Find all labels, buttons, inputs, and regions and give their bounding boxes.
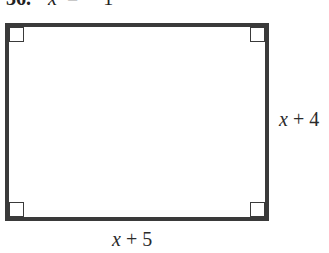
problem-variable: x (48, 0, 57, 9)
side-label-bottom: x + 5 (112, 229, 152, 249)
problem-number: 36. (6, 0, 31, 9)
side-label-bottom-operator: + (126, 228, 137, 250)
right-angle-marker-bottom-right (250, 202, 265, 217)
side-label-right-operator: + (293, 108, 304, 130)
side-label-right: x + 4 (279, 109, 319, 129)
right-angle-marker-top-right (250, 27, 265, 42)
problem-value: 1 (103, 0, 113, 9)
right-angle-marker-top-left (9, 27, 24, 42)
right-angle-marker-bottom-left (9, 202, 24, 217)
problem-header: 36. x = 1 (6, 0, 113, 8)
side-label-right-constant: 4 (309, 108, 319, 130)
problem-equals: = (62, 0, 98, 9)
side-label-right-variable: x (279, 108, 288, 130)
side-label-bottom-variable: x (112, 228, 121, 250)
rectangle-figure (5, 23, 269, 221)
side-label-bottom-constant: 5 (142, 228, 152, 250)
